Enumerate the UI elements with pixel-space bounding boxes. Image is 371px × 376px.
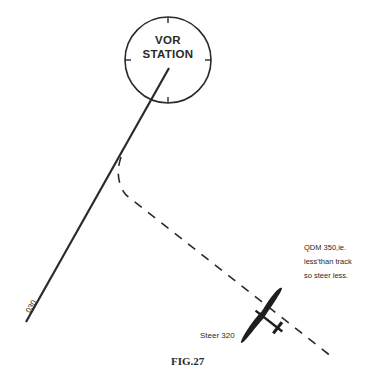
radial-track-line	[26, 68, 169, 322]
vor-label-line1: VOR	[136, 33, 200, 47]
aircraft-path-dashed	[118, 157, 332, 357]
vor-station-label: VOR STATION	[136, 33, 200, 61]
steer-label: Steer 320	[200, 331, 235, 340]
vor-label-line2: STATION	[136, 47, 200, 61]
note-line1: QDM 350,ie.	[304, 241, 352, 255]
note-line3: so steer less.	[304, 269, 352, 283]
note-line2: less'than track	[304, 255, 352, 269]
figure-caption: FIG.27	[171, 355, 204, 367]
aircraft-icon	[214, 268, 309, 363]
qdm-note: QDM 350,ie. less'than track so steer les…	[304, 241, 352, 283]
